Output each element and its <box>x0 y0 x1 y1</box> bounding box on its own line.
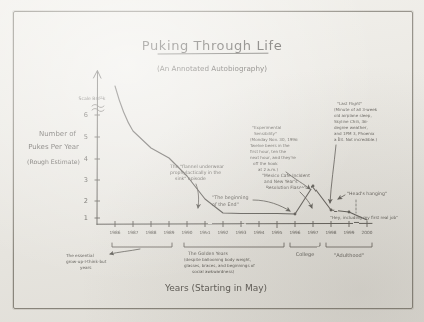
annotation-exp-line-1: "Experimental <box>252 125 281 130</box>
y-tick-label-6: 6 <box>84 111 88 119</box>
x-tick-label-1997: 1997 <box>308 230 319 235</box>
x-tick-label-1993: 1993 <box>236 230 247 235</box>
annotation-exp-line-5: first hour, ten the <box>250 149 286 154</box>
y-tick-label-4: 4 <box>84 155 88 163</box>
annotation-job-line-1: "Hey, including my first real job" <box>330 215 398 220</box>
y-axis <box>97 71 98 225</box>
y-axis-title-line-1: Number of <box>39 130 77 138</box>
annotation-lastflight-line-7: a bit. Not incredible.) <box>334 137 378 142</box>
annotation-lastflight-line-5: degree weather, <box>334 125 368 130</box>
annotation-heads-arrow <box>338 195 345 199</box>
annotation-begin-arrow <box>253 200 290 211</box>
era-bracket-golden-years: The Golden Years (despite ballooning bod… <box>184 243 284 274</box>
x-tick-label-1992: 1992 <box>218 230 229 235</box>
x-tick-label-1989: 1989 <box>164 230 175 235</box>
annotation-exp-line-3: (Monday Nov. 30, 1996 <box>250 137 298 142</box>
annotation-lastflight-line-6: and 1PM 3, Phoenix <box>334 131 375 136</box>
annotation-mexico-arrow <box>300 192 312 208</box>
x-tick-label-1987: 1987 <box>128 230 139 235</box>
annotation-mexico-line-1: "Mexico Cafe Incident <box>262 173 310 178</box>
era-golden-line-2: (despite ballooning body weight, <box>184 257 251 262</box>
annotation-lastflight-line-4: Skyline Chili, 36- <box>334 119 369 124</box>
era-bracket-adulthood: "Adulthood" <box>326 243 372 258</box>
era-essential-line-2: grow-up-I-think-but <box>66 259 107 264</box>
annotation-beginning-of-the-end: "The beginning of the End" <box>212 195 290 211</box>
y-tick-label-2: 2 <box>84 197 88 205</box>
x-tick-label-1998: 1998 <box>326 230 337 235</box>
era-essential-line-3: years <box>80 265 92 270</box>
annotation-heads-line-1: "Head's hanging" <box>347 191 387 196</box>
y-tick-label-3: 3 <box>84 176 88 184</box>
x-tick-label-1994: 1994 <box>254 230 265 235</box>
annotation-heads-hanging: "Head's hanging" <box>338 191 387 199</box>
annotation-lastflight-arrow <box>330 145 336 203</box>
annotation-first-real-job: "Hey, including my first real job" <box>330 200 398 220</box>
x-tick-label-2000: 2000 <box>362 230 373 235</box>
annotation-mexico-cafe: "Mexico Cafe Incident and New Year's Res… <box>262 173 312 208</box>
paper-sheet: Puking Through Life (An Annotated Autobi… <box>0 0 424 322</box>
annotation-lastflight-line-2: (Minute of all 3-week <box>334 107 378 112</box>
x-tick-label-1986: 1986 <box>110 230 121 235</box>
era-essential-line-1: The essential <box>65 253 94 258</box>
x-axis-title: Years (Starting in May) <box>164 283 267 293</box>
annotation-mexico-line-2: and New Year's <box>264 179 298 184</box>
x-tick-label-1991: 1991 <box>200 230 211 235</box>
y-tick-label-5: 5 <box>84 133 88 141</box>
annotation-begin-line-1: "The beginning <box>212 195 249 200</box>
x-tick-label-1999: 1999 <box>344 230 355 235</box>
x-tick-label-1990: 1990 <box>182 230 193 235</box>
annotation-flannel-line-2: prophylactically in the <box>170 170 221 175</box>
y-axis-title-line-3: (Rough Estimate) <box>27 158 80 166</box>
annotation-last-flight: "Last Flight" (Minute of all 3-week old … <box>330 101 378 203</box>
hand-drawn-chart: Puking Through Life (An Annotated Autobi… <box>0 0 424 322</box>
x-tick-label-1988: 1988 <box>146 230 157 235</box>
x-tick-label-1995: 1995 <box>272 230 283 235</box>
era-bracket-essential: The essential grow-up-I-think-but years <box>65 243 172 270</box>
annotation-lastflight-line-1: "Last Flight" <box>337 101 362 106</box>
annotation-exp-line-8: at 2 a.m.) <box>258 167 278 172</box>
annotation-mexico-line-3: Resolution Fiasco" <box>266 185 306 190</box>
era-bracket-college: College <box>290 243 320 258</box>
annotation-flannel-line-1: The "flannel underwear <box>169 164 224 169</box>
y-axis-title: Number of Pukes Per Year (Rough Estimate… <box>27 130 80 166</box>
x-tick-labels: 1986 1987 1988 1989 1990 1991 1992 1993 … <box>110 230 373 235</box>
era-golden-line-3: glasses, braces, and beginnings of <box>184 263 255 268</box>
annotation-flannel-line-3: sink" episode <box>175 176 206 181</box>
era-golden-line-4: social awkwardness) <box>192 269 235 274</box>
era-college-label: College <box>296 251 315 258</box>
annotation-exp-line-4: Twelve beers in the <box>249 143 290 148</box>
y-axis-break-label: Scale Break <box>78 96 105 101</box>
annotation-exp-line-6: next hour, and they're <box>250 155 296 160</box>
y-tick-label-1: 1 <box>84 214 88 222</box>
annotation-exp-line-2: Sensibility" <box>254 131 277 136</box>
chart-subtitle: (An Annotated Autobiography) <box>157 64 267 73</box>
chart-title: Puking Through Life <box>142 38 283 53</box>
annotation-begin-line-2: of the End" <box>212 202 239 207</box>
era-golden-line-1: The Golden Years <box>187 251 228 256</box>
annotation-exp-line-7: off the hook <box>253 161 278 166</box>
annotation-lastflight-line-3: old airplane sleep, <box>334 113 372 118</box>
era-adulthood-label: "Adulthood" <box>334 252 364 258</box>
x-tick-label-1996: 1996 <box>290 230 301 235</box>
y-axis-title-line-2: Pukes Per Year <box>28 143 79 151</box>
y-axis-scale-break <box>92 105 104 112</box>
